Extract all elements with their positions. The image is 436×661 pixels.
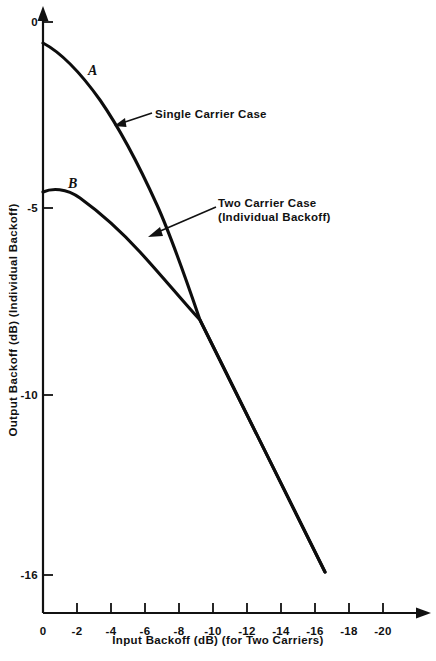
plot-canvas [0,0,436,661]
annotation-two-carrier-case: Two Carrier Case (Individual Backoff) [218,196,331,224]
curve-a-single-carrier [43,43,325,572]
curve-b-two-carrier [43,190,325,572]
x-axis [43,608,431,619]
y-tick-label-0: 0 [31,16,38,28]
single-carrier-leader [114,113,152,127]
y-tick-marks [43,22,53,575]
x-axis-arrowhead [416,608,431,619]
y-tick-label-minus10: -10 [20,389,38,401]
x-tick-label-minus18: -18 [340,625,358,637]
x-axis-title: Input Backoff (dB) (for Two Carriers) [112,634,323,646]
annotation-two-line-1: Two Carrier Case [218,196,331,210]
y-tick-label-minus5: -5 [27,202,38,214]
annotation-single-carrier-case: Single Carrier Case [155,107,267,121]
annotation-single-line-1: Single Carrier Case [155,107,267,121]
curve-label-a: A [88,63,97,79]
y-axis-arrowhead [38,6,49,21]
y-axis-title: Output Backoff (dB) (Individual Backoff) [7,203,19,436]
x-tick-label-0: 0 [40,625,47,637]
y-tick-label-minus16: -16 [20,569,38,581]
y-axis [38,6,49,613]
chart-figure: 0 -5 -10 -16 0 -2 -4 -6 -8 -10 -12 -14 -… [0,0,436,661]
curve-label-b: B [68,176,77,192]
x-tick-label-minus2: -2 [72,625,83,637]
x-tick-label-minus20: -20 [374,625,392,637]
annotation-two-line-2: (Individual Backoff) [218,210,331,224]
x-tick-marks [77,603,383,613]
